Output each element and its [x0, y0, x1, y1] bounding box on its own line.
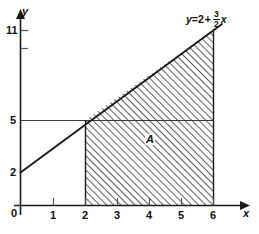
y-axis-label: y [22, 6, 28, 17]
x-tick-label-2: 2 [82, 210, 88, 221]
equation-plus: + [205, 13, 211, 25]
region-label-A: A [145, 134, 155, 145]
x-tick-label-1: 1 [50, 210, 56, 221]
x-tick-label-3: 3 [114, 210, 120, 221]
shaded-region-A [86, 30, 214, 205]
fraction-denominator: 2 [213, 20, 220, 29]
equation-intercept: 2 [198, 13, 204, 25]
x-axis-label: x [243, 208, 249, 219]
equation-variable: x [221, 13, 227, 25]
line-equation-label: y=2+32x [186, 10, 227, 29]
equation-fraction: 32 [213, 10, 220, 29]
y-tick-label-11: 11 [6, 25, 18, 36]
origin-label: 0 [11, 208, 17, 219]
figure-canvas [0, 0, 259, 234]
x-tick-label-6: 6 [210, 210, 216, 221]
y-tick-label-2: 2 [10, 167, 16, 178]
math-figure-area-under-line: y x 0 11 5 2 1 2 3 4 5 6 A y=2+32x [0, 0, 259, 234]
x-tick-label-5: 5 [178, 210, 184, 221]
x-tick-label-4: 4 [146, 210, 152, 221]
y-tick-label-5: 5 [10, 115, 16, 126]
